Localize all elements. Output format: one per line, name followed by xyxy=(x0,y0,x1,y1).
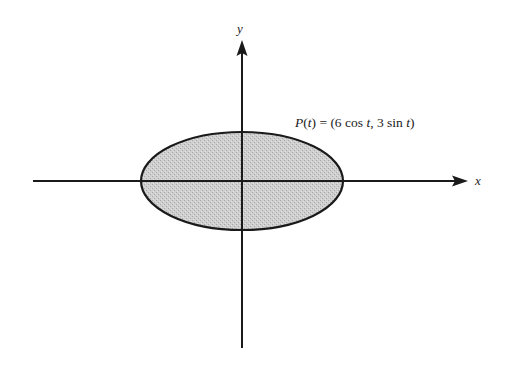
curve-function-name: P xyxy=(295,115,303,130)
ellipse-diagram xyxy=(0,0,511,370)
curve-parameter: t xyxy=(308,115,312,130)
curve-eq-part2: , 3 sin xyxy=(370,115,406,130)
x-axis-label: x xyxy=(475,174,481,187)
y-axis-label: y xyxy=(237,22,243,35)
curve-eq-part1: = (6 cos xyxy=(316,115,366,130)
curve-eq-close: ) xyxy=(410,115,415,130)
curve-equation-label: P(t) = (6 cos t, 3 sin t) xyxy=(295,116,414,130)
